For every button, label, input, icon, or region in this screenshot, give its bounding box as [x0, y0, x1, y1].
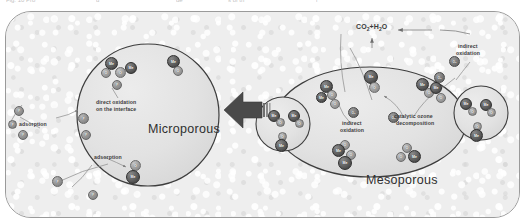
indirect-oxidation-top-line2: oxidation	[456, 51, 480, 57]
sphere-oxygen: O	[173, 66, 183, 76]
caption-fragment: d	[96, 0, 99, 3]
sphere-metal: Me	[338, 156, 352, 170]
product-label: CO2+H2O	[356, 23, 387, 33]
sphere-ozone: O₃	[348, 107, 359, 118]
mesopore-region-label: Mesoporous	[366, 173, 438, 187]
indirect-oxidation-center-line1: indirect	[342, 121, 362, 127]
product-co-text: CO	[356, 23, 367, 30]
catalytic-ozone-label-line2: decomposition	[396, 121, 434, 127]
sphere-pollutant: P	[81, 130, 91, 140]
sphere-oxygen: O	[276, 118, 285, 127]
sphere-metal: Me	[470, 129, 483, 142]
caption-fragment: r	[316, 0, 318, 3]
sphere-pollutant: P	[8, 120, 17, 129]
adsorption-label-lower: adsorption	[94, 155, 122, 161]
indirect-oxidation-center-line2: oxidation	[340, 128, 364, 134]
sphere-metal: Me	[316, 92, 327, 103]
catalytic-ozone-label-line1: catalytic ozone	[394, 114, 433, 120]
sphere-metal: Me	[332, 144, 345, 157]
sphere-pollutant: P	[112, 80, 122, 90]
product-o-text: O	[382, 23, 388, 30]
sphere-pollutant: P	[78, 113, 89, 124]
figure-screenshot: Fig. 10 Pro d de s of th r	[0, 0, 523, 222]
micropore-region-label: Microporous	[148, 122, 220, 136]
sphere-ozone: O₃	[434, 72, 445, 83]
sphere-metal: Me	[275, 139, 288, 152]
sphere-oxygen: O	[487, 108, 496, 117]
sphere-metal: Me	[126, 170, 140, 184]
sphere-oxygen: O	[101, 68, 111, 78]
sphere-oxygen: O	[468, 107, 477, 116]
sphere-pollutant: P	[52, 176, 63, 187]
sphere-oxygen: O	[436, 93, 446, 103]
indirect-oxidation-top-line1: indirect	[458, 44, 478, 50]
adsorption-label-upper: adsorption	[19, 122, 47, 128]
direct-oxidation-label-line2: on the interface	[96, 107, 136, 113]
sphere-metal: Me	[408, 150, 421, 163]
sphere-oxygen: O	[369, 82, 380, 93]
sphere-metal: Me	[125, 62, 137, 74]
sphere-oxygen: O	[396, 152, 406, 162]
caption-fragment: s of th	[228, 0, 244, 3]
sphere-ozone: O₃	[449, 56, 460, 67]
caption-fragment: de	[176, 0, 183, 3]
sphere-pollutant: P	[88, 190, 98, 200]
sphere-pollutant: P	[14, 106, 24, 116]
sphere-oxygen: O	[330, 99, 340, 109]
caption-fragment: Fig. 10 Pro	[6, 0, 35, 3]
product-mid-text: +H	[370, 23, 379, 30]
sphere-pollutant: P	[18, 130, 28, 140]
sphere-oxygen: O	[295, 119, 304, 128]
direct-oxidation-label-line1: direct oxidation	[96, 100, 136, 106]
